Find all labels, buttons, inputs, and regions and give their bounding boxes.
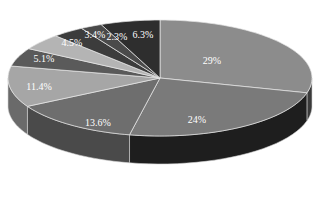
pie-slice-label: 6.3% [133, 29, 154, 40]
pie-slice-label: 13.6% [85, 117, 111, 128]
pie-slice-label: 11.4% [26, 81, 51, 92]
pie-slice-label: 29% [203, 55, 221, 66]
pie-chart-canvas: 29%24%13.6%11.4%5.1%4.5%3.4%2.3%6.3% [0, 0, 320, 211]
pie-slice-label: 3.4% [85, 29, 106, 40]
pie-slice-label: 4.5% [62, 37, 83, 48]
pie-slice-label: 24% [188, 114, 206, 125]
pie-chart: 29%24%13.6%11.4%5.1%4.5%3.4%2.3%6.3% [0, 0, 320, 211]
pie-top-faces [8, 20, 312, 136]
pie-slice-label: 2.3% [107, 31, 128, 42]
pie-slice-label: 5.1% [34, 53, 55, 64]
